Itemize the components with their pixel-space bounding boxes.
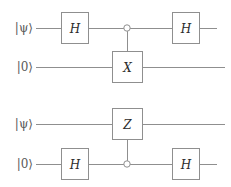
bottom-z-gate[interactable]: Z xyxy=(113,109,143,140)
bottom-wire-1-ket-label: |0⟩ xyxy=(17,157,33,171)
top-x-gate[interactable]: X xyxy=(113,52,143,83)
bottom-z-gate-label: Z xyxy=(122,118,132,132)
top-control-open-circle[interactable] xyxy=(124,25,130,31)
circuit-diagram-canvas: |ψ⟩ |0⟩ H X H |ψ⟩ |0⟩ xyxy=(0,0,231,187)
top-h-left-gate-label: H xyxy=(69,22,81,36)
top-x-gate-label: X xyxy=(122,61,132,75)
top-h-right-gate[interactable]: H xyxy=(173,13,200,44)
top-h-left-gate[interactable]: H xyxy=(62,13,89,44)
circuit-bottom: |ψ⟩ |0⟩ Z H H xyxy=(15,109,225,180)
circuit-top: |ψ⟩ |0⟩ H X H xyxy=(15,13,225,83)
bottom-h-right-gate[interactable]: H xyxy=(173,149,200,180)
bottom-control-open-circle[interactable] xyxy=(124,161,130,167)
top-h-right-gate-label: H xyxy=(180,22,192,36)
bottom-h-left-gate-label: H xyxy=(69,158,81,172)
bottom-h-right-gate-label: H xyxy=(180,158,192,172)
quantum-circuit-figure: |ψ⟩ |0⟩ H X H |ψ⟩ |0⟩ xyxy=(0,0,231,187)
top-wire-0-ket-label: |ψ⟩ xyxy=(15,21,33,35)
bottom-wire-0-ket-label: |ψ⟩ xyxy=(15,117,33,131)
bottom-h-left-gate[interactable]: H xyxy=(62,149,89,180)
top-wire-1-ket-label: |0⟩ xyxy=(17,60,33,74)
